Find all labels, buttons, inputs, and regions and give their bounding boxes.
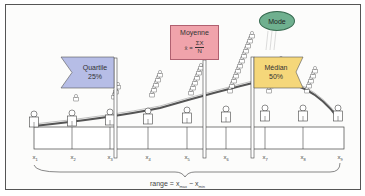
mean-pole	[203, 60, 206, 158]
range-brace	[34, 163, 340, 177]
range-formula: range = xmax − xmin	[150, 180, 205, 189]
median-flag-label: Médian 50%	[256, 63, 296, 81]
front-figures	[30, 105, 343, 127]
mean-title: Moyenne	[171, 29, 218, 36]
x-label-4: x4	[145, 154, 150, 162]
x-label-3: x3	[107, 154, 112, 162]
mean-fraction: ΣX N	[195, 40, 205, 55]
quartile-value: 25%	[76, 72, 114, 81]
median-pole	[251, 57, 254, 158]
x-label-5: x5	[184, 154, 189, 162]
quartile-flag-label: Quartile 25%	[76, 63, 114, 81]
base-bins	[34, 127, 344, 149]
x-label-1: x1	[32, 154, 37, 162]
x-label-7: x7	[262, 154, 267, 162]
mean-sign: Moyenne x̄ = ΣX N	[170, 25, 219, 60]
quartile-pole	[114, 58, 117, 158]
mode-label: Mode	[268, 18, 286, 25]
quartile-title: Quartile	[76, 63, 114, 72]
x-label-9: x9	[337, 154, 342, 162]
median-title: Médian	[256, 63, 296, 72]
x-label-2: x2	[70, 154, 75, 162]
x-label-6: x6	[223, 154, 228, 162]
mode-oval: Mode	[259, 11, 295, 31]
x-label-8: x8	[300, 154, 305, 162]
mean-numerator: ΣX	[195, 40, 205, 48]
median-value: 50%	[256, 72, 296, 81]
mean-formula: x̄ = ΣX N	[171, 40, 218, 55]
mean-formula-lhs: x̄ =	[185, 45, 193, 51]
mean-denominator: N	[197, 48, 201, 55]
